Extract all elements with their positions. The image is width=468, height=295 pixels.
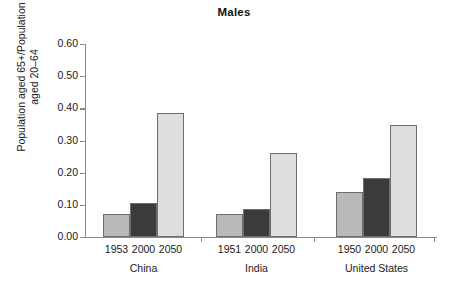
bar [243,209,270,237]
y-tick-label: 0.60 [44,37,78,49]
y-axis-title-line1: Population aged 65+/Population [15,0,28,167]
bar [103,214,130,237]
y-axis-title-line2: aged 20–64 [28,0,41,167]
chart-figure: Males Population aged 65+/Population age… [0,0,468,295]
y-tick-label: 0.20 [44,166,78,178]
y-tick-label: 0.10 [44,198,78,210]
x-group-label: United States [311,262,442,274]
y-tick-label: 0.40 [44,101,78,113]
x-group-label: China [78,262,209,274]
bar [270,153,297,237]
bar [130,203,157,237]
y-tick-label: 0.00 [44,230,78,242]
bar [336,192,363,237]
x-axis-line [85,237,437,238]
plot-area [86,44,436,237]
x-year-label: 2050 [267,243,300,255]
y-tick-label: 0.30 [44,134,78,146]
x-year-label: 2050 [154,243,187,255]
x-group-label: India [191,262,322,274]
x-group-tick [314,238,315,242]
bar [390,125,417,237]
y-axis-title: Population aged 65+/Population aged 20–6… [15,0,41,167]
bar [157,113,184,237]
x-group-tick [201,238,202,242]
y-tick-label: 0.50 [44,69,78,81]
bar [216,214,243,237]
x-year-label: 2050 [387,243,420,255]
bar [363,178,390,237]
chart-title: Males [0,6,468,18]
x-group-tick [434,238,435,242]
